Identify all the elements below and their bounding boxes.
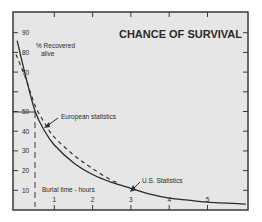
european-statistics-label: European statistics	[61, 113, 117, 121]
us-statistics-label: U.S. Statistics	[142, 177, 183, 184]
chart-title: CHANCE OF SURVIVAL	[119, 28, 242, 40]
y-tick-label: 80	[22, 49, 30, 56]
x-tick-label: 4	[167, 196, 171, 203]
y-tick-label: 10	[22, 187, 30, 194]
y-tick-label: 30	[22, 147, 30, 154]
y-tick-label: 40	[22, 128, 30, 135]
y-axis-label-line1: % Recovered	[36, 42, 75, 49]
y-axis-label-line2: alive	[41, 50, 55, 57]
x-tick-label: 1	[52, 196, 56, 203]
x-tick-label: 2	[91, 196, 95, 203]
y-tick-label: 20	[22, 167, 30, 174]
survival-chart: 102030405070809012345 CHANCE OF SURVIVAL…	[0, 0, 262, 222]
y-tick-label: 90	[22, 29, 30, 36]
x-tick-label: 3	[129, 196, 133, 203]
x-axis-label: Burial time - hours	[42, 186, 95, 193]
